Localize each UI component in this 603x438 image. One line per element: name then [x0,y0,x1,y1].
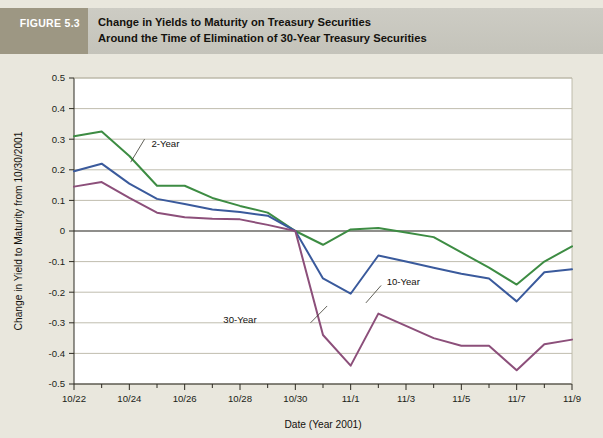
x-tick-label: 11/1 [342,393,360,404]
y-tick-label: 0.1 [52,195,65,206]
x-tick-label: 11/3 [397,393,415,404]
figure-title-line-1: Change in Yields to Maturity on Treasury… [98,15,603,31]
series-label-30-year: 30-Year [223,314,257,325]
figure-title-line-2: Around the Time of Elimination of 30-Yea… [98,31,603,47]
y-tick-label: 0 [60,225,65,236]
figure-banner: FIGURE 5.3 Change in Yields to Maturity … [0,8,603,54]
y-tick-label: -0.4 [48,348,65,359]
y-axis-tick-labels: 0.50.40.30.20.10-0.1-0.2-0.3-0.4-0.5 [48,72,65,389]
x-tick-label: 10/30 [283,393,307,404]
y-axis-ticks [69,78,74,384]
y-tick-label: 0.4 [52,103,66,114]
x-axis-tick-labels: 10/2210/2410/2610/2810/3011/111/311/511/… [62,393,581,404]
y-tick-label: 0.2 [52,164,65,175]
y-tick-label: -0.3 [48,317,65,328]
x-axis-title: Date (Year 2001) [284,419,361,430]
y-tick-label: -0.5 [48,378,65,389]
x-tick-label: 10/26 [173,393,197,404]
figure-title-block: Change in Yields to Maturity on Treasury… [88,8,603,54]
yield-change-line-chart: 0.50.40.30.20.10-0.1-0.2-0.3-0.4-0.5 10/… [0,56,603,438]
series-label-10-year: 10-Year [387,276,421,287]
y-tick-label: -0.2 [48,287,65,298]
x-tick-label: 11/7 [508,393,526,404]
x-tick-label: 10/24 [117,393,142,404]
series-label-2-year: 2-Year [151,138,180,149]
x-tick-label: 10/22 [62,393,86,404]
x-tick-label: 11/5 [452,393,470,404]
x-tick-label: 10/28 [228,393,252,404]
y-axis-title: Change in Yield to Maturity from 10/30/2… [13,131,24,330]
y-tick-label: 0.5 [52,72,65,83]
x-axis-ticks [74,384,572,390]
x-tick-label: 11/9 [563,393,581,404]
y-tick-label: 0.3 [52,134,65,145]
figure-number-tag: FIGURE 5.3 [0,8,88,54]
chart-container: 0.50.40.30.20.10-0.1-0.2-0.3-0.4-0.5 10/… [0,56,603,438]
y-tick-label: -0.1 [48,256,65,267]
